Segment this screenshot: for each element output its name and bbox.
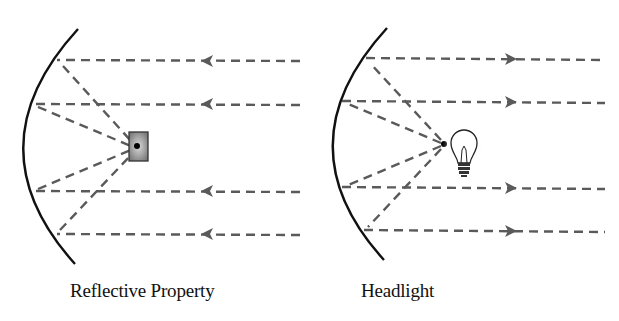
panel-headlight (333, 28, 605, 260)
arrowheads-left (201, 55, 213, 240)
caption-headlight: Headlight (361, 280, 434, 302)
parabolic-mirror (23, 29, 78, 264)
caption-reflective-property: Reflective Property (70, 280, 214, 302)
parabolic-reflection-diagram (0, 0, 619, 321)
incoming-ray-2 (33, 104, 300, 105)
reflected-rays (38, 66, 131, 230)
arrow-left-icon (201, 228, 213, 240)
outgoing-ray-2 (342, 101, 605, 103)
light-bulb-icon (442, 124, 486, 177)
parabolic-mirror (333, 28, 387, 260)
incoming-ray-3 (33, 191, 300, 192)
incoming-rays (33, 60, 300, 235)
arrow-right-icon (505, 96, 517, 108)
incoming-ray-4 (57, 234, 300, 235)
focus-point (134, 143, 140, 149)
outgoing-ray-4 (364, 230, 605, 232)
arrow-right-icon (505, 182, 517, 194)
reflected-ray-4 (60, 155, 131, 230)
emitted-ray-3 (346, 146, 441, 186)
incoming-ray-1 (57, 60, 300, 61)
arrow-left-icon (201, 185, 213, 197)
outgoing-ray-1 (366, 58, 605, 60)
arrow-left-icon (201, 98, 213, 110)
panel-reflective-property (23, 29, 300, 264)
outgoing-ray-3 (342, 187, 605, 189)
arrow-left-icon (201, 55, 213, 67)
arrowheads-right (505, 53, 517, 237)
emitted-rays (346, 63, 441, 227)
